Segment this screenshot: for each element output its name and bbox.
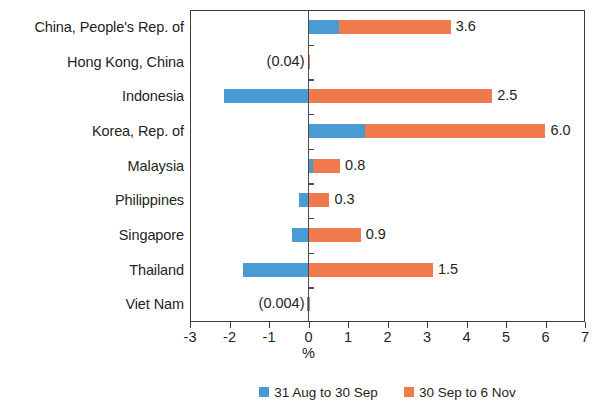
bar-row: 0.8 <box>190 149 585 184</box>
bar-value-label: 0.8 <box>345 157 365 174</box>
bar-segment-period-2 <box>309 193 330 207</box>
x-axis-tick-label: 3 <box>412 329 442 346</box>
category-label: Indonesia <box>0 89 184 104</box>
bar-value-label: 6.0 <box>551 122 571 139</box>
x-axis-tick <box>388 322 389 328</box>
category-label: Korea, Rep. of <box>0 124 184 139</box>
x-axis-tick-label: 6 <box>531 329 561 346</box>
x-axis-tick-label: -2 <box>215 329 245 346</box>
category-label: Singapore <box>0 228 184 243</box>
x-axis-tick <box>348 322 349 328</box>
chart-legend: 31 Aug to 30 Sep30 Sep to 6 Nov <box>190 382 585 402</box>
bar-segment-period-2 <box>309 89 493 103</box>
x-axis-tick <box>467 322 468 328</box>
bar-segment-period-2 <box>313 159 340 173</box>
bar-segment-period-2 <box>309 55 311 69</box>
x-axis-tick <box>585 322 586 328</box>
legend-swatch-icon <box>404 387 414 397</box>
legend-swatch-icon <box>259 387 269 397</box>
bar-value-label: 1.5 <box>438 261 458 278</box>
bar-segment-period-2 <box>309 297 311 311</box>
bar-value-label: 3.6 <box>456 18 476 35</box>
x-axis-tick-label: 2 <box>373 329 403 346</box>
category-label: China, People's Rep. of <box>0 20 184 35</box>
bar-value-label: (0.004) <box>259 295 305 312</box>
category-label: Malaysia <box>0 159 184 174</box>
bar-segment-period-1 <box>309 124 365 138</box>
bar-row: 0.9 <box>190 218 585 253</box>
bar-segment-period-1 <box>292 228 309 242</box>
x-axis-tick-label: 0 <box>294 329 324 346</box>
bar-value-label: 2.5 <box>497 87 517 104</box>
bar-row: 2.5 <box>190 79 585 114</box>
category-axis-labels: China, People's Rep. ofHong Kong, ChinaI… <box>0 10 184 322</box>
x-axis-title: % <box>190 345 427 361</box>
bar-segment-period-2 <box>309 263 433 277</box>
x-axis-tick-label: 5 <box>491 329 521 346</box>
x-axis-tick-label: 4 <box>452 329 482 346</box>
x-axis-tick <box>190 322 191 328</box>
bar-segment-period-1 <box>243 263 308 277</box>
x-axis-tick <box>230 322 231 328</box>
bar-segment-period-1 <box>224 89 309 103</box>
category-label: Philippines <box>0 193 184 208</box>
plot-area: 3.6(0.04)2.56.00.80.30.91.5(0.004) <box>190 10 585 322</box>
x-axis-tick <box>427 322 428 328</box>
bar-row: 0.3 <box>190 183 585 218</box>
bar-value-label: 0.9 <box>366 226 386 243</box>
x-axis-tick-label: 7 <box>570 329 600 346</box>
x-axis-tick <box>309 322 310 328</box>
bar-segment-period-2 <box>365 124 546 138</box>
bar-row: (0.04) <box>190 45 585 80</box>
category-label: Viet Nam <box>0 297 184 312</box>
bar-segment-period-1 <box>309 20 340 34</box>
legend-label: 31 Aug to 30 Sep <box>274 385 378 400</box>
x-axis-tick-label: -3 <box>175 329 205 346</box>
x-axis-tick <box>546 322 547 328</box>
bar-value-label: 0.3 <box>334 191 354 208</box>
category-label: Hong Kong, China <box>0 55 184 70</box>
legend-label: 30 Sep to 6 Nov <box>419 385 516 400</box>
bar-chart-figure: China, People's Rep. ofHong Kong, ChinaI… <box>0 0 600 409</box>
bar-row: 6.0 <box>190 114 585 149</box>
bar-row: (0.004) <box>190 287 585 322</box>
bar-segment-period-2 <box>309 228 361 242</box>
x-axis-tick <box>269 322 270 328</box>
x-axis-tick-label: 1 <box>333 329 363 346</box>
x-axis-tick <box>506 322 507 328</box>
bar-segment-period-2 <box>339 20 450 34</box>
legend-item[interactable]: 31 Aug to 30 Sep <box>259 385 378 400</box>
bar-row: 3.6 <box>190 10 585 45</box>
bar-value-label: (0.04) <box>267 53 305 70</box>
category-label: Thailand <box>0 263 184 278</box>
legend-item[interactable]: 30 Sep to 6 Nov <box>404 385 516 400</box>
bar-row: 1.5 <box>190 253 585 288</box>
bar-segment-period-1 <box>299 193 308 207</box>
x-axis-tick-label: -1 <box>254 329 284 346</box>
